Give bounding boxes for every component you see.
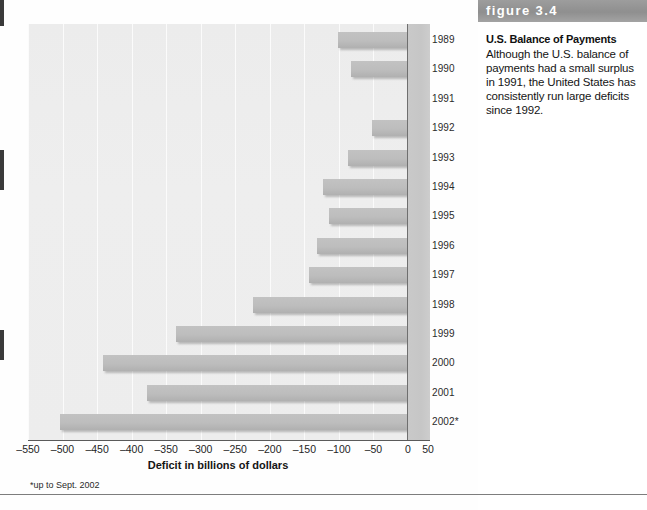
bar-1999 xyxy=(176,326,408,342)
x-tick-label: 0 xyxy=(405,443,411,455)
bar-chart: 1989199019911992199319941995199619971998… xyxy=(0,0,452,500)
x-axis-title: Deficit in billions of dollars xyxy=(28,459,408,471)
gridline xyxy=(28,24,29,440)
year-label-1998: 1998 xyxy=(432,299,455,310)
plot-area xyxy=(28,24,408,440)
gridline xyxy=(201,24,202,440)
gridline xyxy=(235,24,236,440)
x-tick-label: –500 xyxy=(51,443,74,455)
year-label-2000: 2000 xyxy=(432,357,455,368)
x-tick-label: –100 xyxy=(327,443,350,455)
x-axis-ticks: –550–500–450–400–350–300–250–200–150–100… xyxy=(0,443,452,457)
x-tick-label: –550 xyxy=(16,443,39,455)
year-label-1996: 1996 xyxy=(432,240,455,251)
x-tick-label: –150 xyxy=(293,443,316,455)
bar-1992 xyxy=(372,120,408,136)
gridline xyxy=(166,24,167,440)
bar-1996 xyxy=(317,238,408,254)
year-panel-band xyxy=(408,24,430,440)
x-tick-label: –400 xyxy=(120,443,143,455)
year-label-1991: 1991 xyxy=(432,93,455,104)
bar-1989 xyxy=(338,32,408,48)
year-label-2002: 2002* xyxy=(432,416,459,427)
year-label-1994: 1994 xyxy=(432,181,455,192)
gridline xyxy=(373,24,374,440)
x-tick-label: –250 xyxy=(224,443,247,455)
x-axis-line xyxy=(28,440,430,441)
bar-1997 xyxy=(309,267,408,283)
caption-body: Although the U.S. balance of payments ha… xyxy=(486,47,644,117)
gridline xyxy=(270,24,271,440)
x-tick-label: –350 xyxy=(154,443,177,455)
year-label-1997: 1997 xyxy=(432,269,455,280)
gridline xyxy=(97,24,98,440)
year-label-1992: 1992 xyxy=(432,122,455,133)
chart-footnote: *up to Sept. 2002 xyxy=(30,480,100,490)
bar-1998 xyxy=(253,297,408,313)
year-label-1989: 1989 xyxy=(432,34,455,45)
gridline xyxy=(63,24,64,440)
x-tick-label: 50 xyxy=(422,443,434,455)
year-label-1990: 1990 xyxy=(432,63,455,74)
bar-2002 xyxy=(60,414,408,430)
bar-1994 xyxy=(323,179,408,195)
year-axis-labels: 1989199019911992199319941995199619971998… xyxy=(432,24,478,440)
page-separator-rule xyxy=(0,494,647,495)
bar-2001 xyxy=(147,385,408,401)
year-label-1995: 1995 xyxy=(432,210,455,221)
bar-1990 xyxy=(351,61,408,77)
caption-title: U.S. Balance of Payments xyxy=(486,33,642,45)
bar-1993 xyxy=(348,150,408,166)
x-tick-label: –300 xyxy=(189,443,212,455)
x-tick-label: –450 xyxy=(85,443,108,455)
gridline xyxy=(132,24,133,440)
gridline xyxy=(304,24,305,440)
figure-page: 1989199019911992199319941995199619971998… xyxy=(0,0,647,510)
x-tick-label: –200 xyxy=(258,443,281,455)
year-label-2001: 2001 xyxy=(432,387,455,398)
bar-1995 xyxy=(329,208,408,224)
year-label-1993: 1993 xyxy=(432,152,455,163)
gridline xyxy=(339,24,340,440)
year-label-1999: 1999 xyxy=(432,328,455,339)
figure-number-label: figure 3.4 xyxy=(486,3,558,18)
x-tick-label: –50 xyxy=(365,443,383,455)
caption-panel: figure 3.4 U.S. Balance of Payments Alth… xyxy=(478,0,647,510)
figure-number-band: figure 3.4 xyxy=(478,0,647,22)
bar-2000 xyxy=(103,355,408,371)
